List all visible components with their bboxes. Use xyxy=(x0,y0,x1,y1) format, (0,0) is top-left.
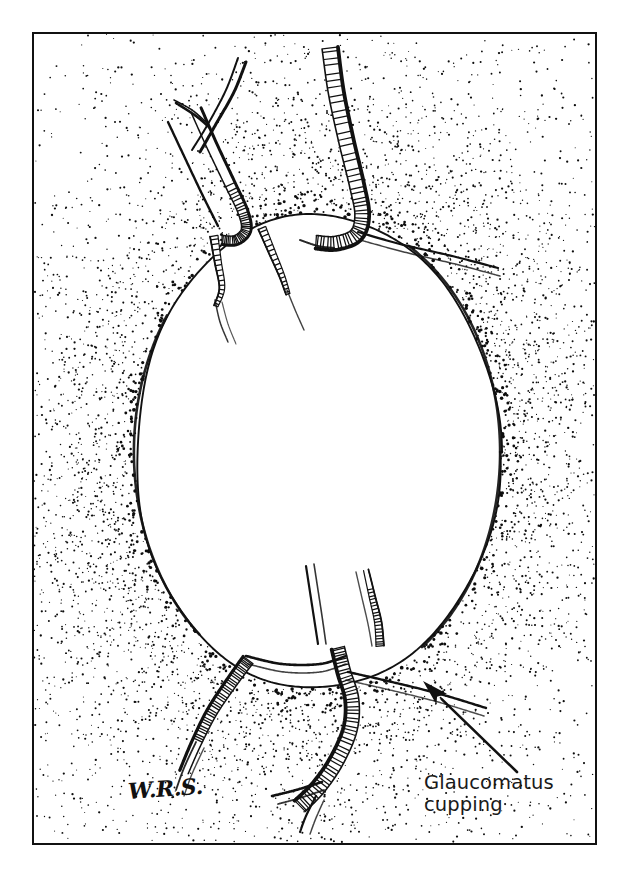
illustration-canvas: Glaucomatus cupping W.R.S. xyxy=(0,0,631,877)
annotation-label-line-2: cupping xyxy=(424,794,594,816)
artist-signature: W.R.S. xyxy=(127,773,203,804)
annotation-label: Glaucomatus cupping xyxy=(424,772,594,816)
annotation-label-line-1: Glaucomatus xyxy=(424,772,594,794)
optic-cup-rim xyxy=(134,214,502,687)
optic-disc-artwork xyxy=(0,0,631,877)
annotation-arrow xyxy=(423,681,517,772)
